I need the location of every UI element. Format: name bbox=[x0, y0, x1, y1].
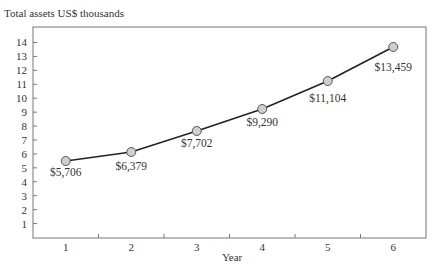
chart-title: Total assets US$ thousands bbox=[4, 7, 124, 19]
x-tick-label: 1 bbox=[63, 241, 69, 253]
x-tick-label: 2 bbox=[129, 241, 135, 253]
y-tick-label: 3 bbox=[22, 190, 28, 202]
data-point-label: $9,290 bbox=[246, 116, 278, 129]
data-point-label: $11,104 bbox=[309, 92, 346, 105]
x-axis-title: Year bbox=[222, 251, 243, 263]
x-tick-label: 4 bbox=[260, 241, 266, 253]
y-tick-label: 4 bbox=[22, 176, 28, 188]
y-tick-label: 6 bbox=[22, 148, 28, 160]
y-tick-label: 7 bbox=[22, 134, 28, 146]
y-tick-label: 1 bbox=[22, 218, 28, 230]
data-point-label: $13,459 bbox=[375, 61, 413, 74]
data-point-marker bbox=[323, 77, 332, 86]
series-line bbox=[66, 47, 394, 161]
x-tick-label: 3 bbox=[194, 241, 200, 253]
y-tick-label: 2 bbox=[22, 204, 28, 216]
y-tick-label: 5 bbox=[22, 162, 28, 174]
y-tick-label: 14 bbox=[16, 36, 28, 48]
x-tick-label: 5 bbox=[325, 241, 331, 253]
plot-frame bbox=[33, 27, 426, 238]
y-axis: 1234567891011121314 bbox=[16, 36, 37, 229]
y-tick-label: 13 bbox=[16, 50, 28, 62]
y-tick-label: 11 bbox=[16, 78, 27, 90]
y-tick-label: 10 bbox=[16, 92, 28, 104]
y-tick-label: 9 bbox=[22, 106, 28, 118]
data-series: $5,706$6,379$7,702$9,290$11,104$13,459 bbox=[50, 43, 412, 180]
data-point-label: $5,706 bbox=[50, 166, 82, 179]
data-point-marker bbox=[127, 148, 136, 157]
data-point-marker bbox=[258, 105, 267, 114]
x-tick-label: 6 bbox=[391, 241, 397, 253]
y-tick-label: 12 bbox=[16, 64, 27, 76]
data-point-marker bbox=[61, 157, 70, 166]
data-point-label: $6,379 bbox=[115, 160, 147, 173]
data-point-label: $7,702 bbox=[181, 137, 213, 150]
y-tick-label: 8 bbox=[22, 120, 28, 132]
data-point-marker bbox=[389, 43, 398, 52]
line-chart: Total assets US$ thousands 1234567891011… bbox=[0, 0, 440, 278]
data-point-marker bbox=[192, 127, 201, 136]
